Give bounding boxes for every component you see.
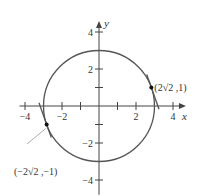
x-tick-label: 2 (134, 111, 139, 122)
marks: (2√2 ,1)(−2√2 ,−1) (14, 51, 186, 179)
point-label: (−2√2 ,−1) (14, 166, 57, 178)
y-tick-label: −2 (82, 138, 93, 149)
point-label: (2√2 ,1) (154, 82, 186, 94)
circle-tangent-diagram: −4−22442−2−4 (2√2 ,1)(−2√2 ,−1) x y (0, 0, 204, 196)
x-tick-label: −4 (20, 111, 31, 122)
y-tick-label: 4 (88, 27, 93, 38)
x-tick-label: 4 (171, 111, 176, 122)
x-tick-label: −2 (57, 111, 68, 122)
tangent-point (149, 86, 153, 90)
y-tick-label: 2 (88, 64, 93, 75)
y-axis-label: y (103, 17, 109, 29)
y-axis-arrow (96, 21, 102, 28)
tangent-point (45, 123, 49, 127)
x-axis-arrow (179, 103, 186, 109)
y-tick-label: −4 (82, 175, 93, 186)
x-axis-label: x (181, 110, 187, 122)
leader-line (27, 129, 46, 145)
